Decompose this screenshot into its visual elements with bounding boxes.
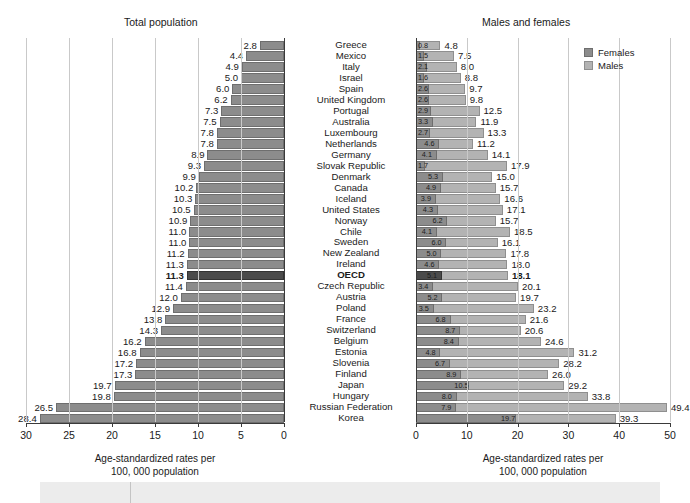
males-value: 49.4 [671,401,690,414]
left-x-axis: 302520151050 [26,423,284,445]
axis-tick-label: 10 [461,429,473,441]
axis-tick-label: 30 [563,429,575,441]
left-axis-caption-line1: Age-standardized rates per [25,452,285,465]
gridline [284,38,285,422]
legend-label-females: Females [598,47,634,58]
gridline [112,38,113,422]
axis-tick-label: 25 [63,429,75,441]
axis-tick-label: 30 [20,429,32,441]
legend-item-males: Males [584,60,634,71]
axis-tick-label: 40 [613,429,625,441]
gridline [670,38,671,422]
gridline [518,38,519,422]
legend-item-females: Females [584,47,634,58]
total-population-bar [40,414,284,424]
axis-tick-label: 0 [281,429,287,441]
right-axis-caption-line1: Age-standardized rates per [413,452,673,465]
axis-tick [69,423,70,427]
gridline [568,38,569,422]
axis-tick [26,423,27,427]
axis-tick-label: 0 [413,429,419,441]
axis-tick [619,423,620,427]
country-label-column: GreeceMexicoItalyIsraelSpainUnited Kingd… [288,38,414,422]
right-axis-caption-line2: 100, 000 population [413,465,673,478]
right-panel-title: Males and females [482,16,570,28]
left-axis-caption: Age-standardized rates per 100, 000 popu… [25,452,285,478]
legend-swatch-males-icon [584,61,593,70]
gridline [619,38,620,422]
right-x-axis: 01020304050 [416,423,670,445]
axis-tick-label: 5 [238,429,244,441]
left-axis-caption-line2: 100, 000 population [25,465,285,478]
axis-tick [198,423,199,427]
females-value: 19.7 [501,413,515,424]
axis-tick [155,423,156,427]
axis-tick-label: 20 [512,429,524,441]
axis-tick-label: 10 [192,429,204,441]
gridline [198,38,199,422]
legend-swatch-females-icon [584,48,593,57]
gridline [69,38,70,422]
males-females-bars: 0.84.81.57.52.18.01.68.82.69.72.69.82.91… [416,38,670,422]
axis-tick [568,423,569,427]
footer-divider [130,482,131,503]
males-females-plot: 0.84.81.57.52.18.01.68.82.69.72.69.82.91… [416,38,670,422]
axis-tick [467,423,468,427]
axis-line [416,423,670,424]
axis-tick [241,423,242,427]
axis-tick [416,423,417,427]
right-axis-caption: Age-standardized rates per 100, 000 popu… [413,452,673,478]
gridline [155,38,156,422]
legend: Females Males [584,47,634,73]
gridline [467,38,468,422]
country-label: Korea [288,411,414,425]
axis-tick [518,423,519,427]
total-population-plot: 2.84.44.95.06.06.27.37.57.87.88.99.39.91… [26,38,284,422]
axis-tick-label: 20 [106,429,118,441]
axis-tick-label: 15 [149,429,161,441]
axis-tick [670,423,671,427]
axis-tick [112,423,113,427]
axis-tick [284,423,285,427]
gridline [416,38,417,422]
footer-band [40,482,660,503]
gridline [241,38,242,422]
gridline [26,38,27,422]
legend-label-males: Males [598,60,623,71]
left-panel-title: Total population [124,16,198,28]
axis-tick-label: 50 [664,429,676,441]
